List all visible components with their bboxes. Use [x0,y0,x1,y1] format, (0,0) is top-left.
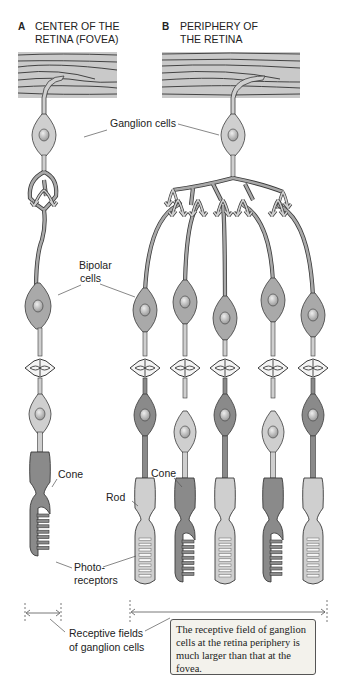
cone-photoreceptor [175,478,196,582]
nucleus [220,409,230,421]
nucleus [180,426,190,438]
panel-a-letter: A [18,21,25,32]
retina-diagram: A CENTER OF THE RETINA (FOVEA) B PERIPHE… [0,0,344,689]
receptive-field-fovea [25,603,61,622]
nucleus [268,294,278,306]
nerve-fiber-layer-fovea [18,52,117,98]
label-photoreceptors-line2: receptors [74,574,118,587]
nucleus [308,409,318,421]
nucleus [35,408,45,420]
panel-b-letter: B [162,21,169,32]
panel-a-title: A CENTER OF THE RETINA (FOVEA) [18,20,25,34]
cone-photoreceptor [263,478,284,582]
nucleus [228,129,238,141]
rod-photoreceptor [135,478,156,584]
panel-a-title-line1: CENTER OF THE [35,20,119,33]
label-ganglion-cells: Ganglion cells [110,117,176,130]
nucleus [140,409,150,421]
nucleus [140,304,150,316]
panel-b-title-line2: THE RETINA [180,33,242,46]
label-photoreceptors-line1: Photo- [74,561,105,574]
label-bipolar-line1: Bipolar [79,259,112,272]
label-cone-periphery: Cone [151,467,176,480]
nucleus [180,296,190,308]
retina-illustration [0,0,344,689]
nerve-fiber-layer-periphery [162,52,300,98]
panel-a-title-line2: RETINA (FOVEA) [35,33,118,46]
label-cone-fovea: Cone [58,468,83,481]
panel-b-title: B PERIPHERY OF THE RETINA [162,20,169,34]
label-receptive-fields-line1: Receptive fields [69,627,143,640]
note-callout: The receptive field of ganglion cells at… [170,619,316,675]
nucleus [39,129,49,141]
nucleus [308,309,318,321]
rod-photoreceptor [215,478,236,584]
panel-b-title-line1: PERIPHERY OF [180,20,258,33]
cone-photoreceptor [30,452,51,556]
label-receptive-fields-line2: of ganglion cells [69,641,144,654]
label-rod: Rod [106,491,125,504]
nucleus [33,300,43,312]
nucleus [220,312,230,324]
nucleus [268,426,278,438]
label-bipolar-line2: cells [80,272,101,285]
rod-photoreceptor [303,478,324,584]
